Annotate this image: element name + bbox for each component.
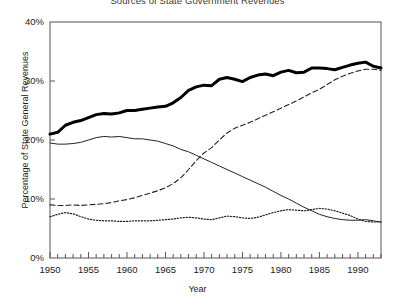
thick-solid-series: [50, 62, 381, 134]
plot-frame: [50, 22, 381, 258]
axis-ticks: [50, 81, 381, 258]
thin-solid-series: [50, 136, 381, 222]
data-series-group: [50, 62, 381, 222]
plot-area: [0, 0, 395, 306]
chart-container: Sources of State Government Revenues Per…: [0, 0, 395, 306]
dotted-series: [50, 208, 381, 222]
